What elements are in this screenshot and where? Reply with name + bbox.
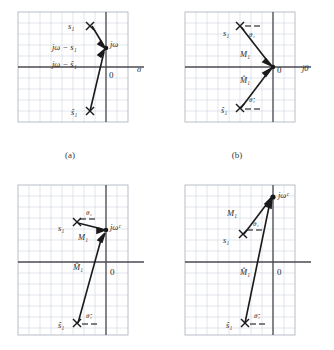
grid-c <box>18 185 128 335</box>
label-magnitude-M1-d: M₁ <box>226 208 237 218</box>
evaluation-point-b <box>271 65 276 70</box>
grid-d <box>185 185 295 335</box>
evaluation-point-c <box>104 228 109 233</box>
label-vector-1-a: jω − s₁ <box>51 42 77 52</box>
panel-b: s₁ θ₁ M₁ M̂₁ θ̂₁ ŝ₁ 0 j0 <box>183 10 323 145</box>
figure-pole-zero-vectors: s₁ jω − s₁ jω − ŝ₁ ŝ₁ jω 0 σ (a) <box>0 0 334 350</box>
caption-b: (b) <box>217 150 257 160</box>
label-origin-a: 0 <box>109 70 114 80</box>
panel-c: θ₁ s₁ M₁ M̂₁ θ̂₁ ŝ₁ jωᶜ 0 <box>16 183 156 343</box>
label-magnitude-Mhat1-b: M̂₁ <box>239 75 250 85</box>
evaluation-point-a <box>104 46 109 51</box>
label-origin-d: 0 <box>277 267 282 277</box>
label-magnitude-Mhat1-d: M̂₁ <box>239 267 250 277</box>
label-pole-b: s₁ <box>223 28 229 38</box>
panel-d: M₁ θ₁ s₁ M̂₁ θ̂₁ ŝ₁ jωᶜ 0 <box>183 183 323 343</box>
label-vector-2-a: jω − ŝ₁ <box>51 59 77 69</box>
caption-a: (a) <box>50 150 90 160</box>
label-axis-j0-b: j0 <box>301 63 309 73</box>
label-angle-thetahat-d: θ̂₁ <box>254 312 260 320</box>
label-magnitude-M1-b: M₁ <box>239 49 250 59</box>
label-angle-thetahat-b: θ̂₁ <box>249 96 255 104</box>
label-conjugate-pole-c: ŝ₁ <box>58 320 64 330</box>
label-pole-c: s₁ <box>58 223 64 233</box>
label-magnitude-M1-c: M₁ <box>77 232 88 242</box>
label-angle-thetahat-c: θ̂₁ <box>86 312 92 320</box>
label-conjugate-pole-b: ŝ₁ <box>221 105 227 115</box>
label-conjugate-pole-a: ŝ₁ <box>71 107 77 117</box>
label-origin-c: 0 <box>110 267 115 277</box>
label-angle-theta-c: θ₁ <box>86 209 92 217</box>
label-point-d: jωᶜ <box>277 190 289 200</box>
label-magnitude-Mhat1-c: M̂₁ <box>72 262 83 272</box>
evaluation-point-d <box>270 194 275 199</box>
label-pole-d: s₁ <box>223 235 229 245</box>
panel-a: s₁ jω − s₁ jω − ŝ₁ ŝ₁ jω 0 σ <box>16 10 156 145</box>
label-angle-theta-d: θ₁ <box>253 220 259 228</box>
label-conjugate-pole-d: ŝ₁ <box>226 320 232 330</box>
label-point-c: jωᶜ <box>109 222 121 232</box>
label-angle-theta-b: θ₁ <box>249 31 255 39</box>
label-pole-a: s₁ <box>68 21 74 31</box>
label-point-a: jω <box>109 39 118 49</box>
label-axis-sigma-a: σ <box>137 64 142 74</box>
label-origin-b: 0 <box>277 65 282 75</box>
